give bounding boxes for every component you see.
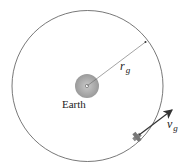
- radius-line: [87, 42, 146, 86]
- radius-label: rg: [120, 59, 131, 75]
- velocity-label: vg: [167, 117, 178, 133]
- earth-label: Earth: [62, 98, 86, 110]
- radius-endpoint: [145, 41, 147, 43]
- orbit-diagram: rg Earth vg: [0, 0, 190, 167]
